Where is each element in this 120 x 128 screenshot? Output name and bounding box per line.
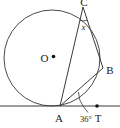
label-c: C bbox=[80, 0, 87, 8]
label-angle-x: x bbox=[81, 22, 86, 32]
center-dot-o bbox=[52, 55, 56, 59]
geometry-figure-container: O A B C T x 36° bbox=[0, 0, 120, 128]
label-t: T bbox=[95, 112, 102, 124]
angle-arc-c bbox=[80, 20, 87, 21]
segment-ab bbox=[60, 68, 103, 106]
circle-geometry-diagram: O A B C T x 36° bbox=[0, 0, 120, 128]
segment-cb bbox=[83, 7, 103, 68]
angle-arc-a bbox=[78, 92, 83, 106]
main-circle bbox=[4, 10, 100, 106]
label-angle-36: 36° bbox=[80, 114, 92, 124]
segment-ac bbox=[60, 7, 83, 106]
angle-leader-a bbox=[83, 106, 88, 113]
point-dot-t bbox=[95, 104, 99, 108]
label-o: O bbox=[41, 52, 49, 64]
label-b: B bbox=[106, 64, 113, 76]
label-a: A bbox=[55, 112, 63, 124]
